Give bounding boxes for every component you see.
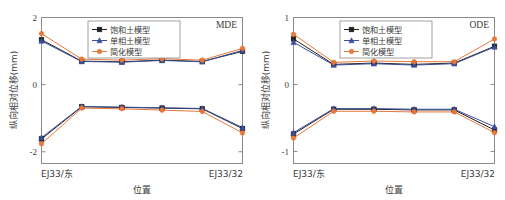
series-line — [42, 107, 243, 139]
x-tick-label-left: EJ33/东 — [293, 168, 325, 179]
data-point-marker — [412, 59, 417, 64]
legend-mde: 饱和土模型单相土模型简化模型 — [88, 21, 180, 58]
data-point-marker — [120, 106, 125, 111]
legend-label: 饱和土模型 — [362, 25, 402, 35]
y-tick-label: -1 — [282, 147, 290, 157]
legend-label: 单相土模型 — [110, 36, 150, 46]
data-point-marker — [120, 58, 125, 63]
x-tick-label-right: EJ33/32 — [209, 169, 243, 179]
data-point-marker — [492, 37, 497, 42]
data-point-marker — [200, 58, 205, 63]
legend-marker-square — [97, 27, 102, 32]
y-tick-label: 0 — [285, 80, 290, 90]
data-point-marker — [372, 59, 377, 64]
legend-label: 简化模型 — [362, 47, 394, 57]
panel-mde: 2 0 -2 EJ33/东 EJ33/32 位置 纵向相对位移(mm) MDE … — [0, 0, 252, 200]
data-point-marker — [39, 31, 44, 36]
y-axis-title-mde: 纵向相对位移(mm) — [8, 51, 19, 130]
x-tick-label-left: EJ33/东 — [41, 168, 73, 179]
legend-ode: 饱和土模型单相土模型简化模型 — [340, 21, 432, 58]
figure-two-panel-line-charts: 2 0 -2 EJ33/东 EJ33/32 位置 纵向相对位移(mm) MDE … — [0, 0, 505, 200]
legend-label: 饱和土模型 — [110, 25, 150, 35]
data-point-marker — [291, 32, 296, 37]
x-axis-title-mde: 位置 — [133, 184, 151, 195]
data-point-marker — [79, 106, 84, 111]
data-point-marker — [240, 131, 245, 136]
legend-label: 单相土模型 — [362, 36, 402, 46]
data-point-marker — [372, 109, 377, 114]
x-tick-labels-ode: EJ33/东 EJ33/32 — [293, 168, 495, 179]
data-point-marker — [160, 108, 165, 113]
data-point-marker — [412, 110, 417, 115]
series-line — [294, 109, 495, 133]
y-tick-label: -2 — [30, 147, 38, 157]
series-line — [42, 106, 243, 137]
data-point-marker — [39, 141, 44, 146]
y-tick-labels-ode: 1 0 -1 — [282, 13, 290, 157]
y-tick-label: 0 — [33, 80, 38, 90]
legend-marker-circle — [97, 49, 102, 54]
data-point-marker — [79, 57, 84, 62]
panel-tag-ode: ODE — [469, 20, 489, 30]
data-point-marker — [452, 59, 457, 64]
panel-tag-mde: MDE — [216, 20, 237, 30]
x-tick-label-right: EJ33/32 — [461, 169, 495, 179]
data-point-marker — [200, 109, 205, 114]
x-tick-labels-mde: EJ33/东 EJ33/32 — [41, 168, 243, 179]
x-axis-title-ode: 位置 — [385, 184, 403, 195]
data-point-marker — [331, 109, 336, 114]
chart-svg-ode: 1 0 -1 EJ33/东 EJ33/32 位置 纵向相对位移(mm) ODE … — [252, 0, 504, 200]
panel-ode: 1 0 -1 EJ33/东 EJ33/32 位置 纵向相对位移(mm) ODE … — [252, 0, 504, 200]
y-axis-title-ode: 纵向相对位移(mm) — [260, 51, 271, 130]
y-tick-label: 2 — [33, 13, 38, 23]
legend-marker-square — [349, 27, 354, 32]
y-tick-label: 1 — [285, 13, 290, 23]
data-point-marker — [240, 46, 245, 51]
chart-svg-mde: 2 0 -2 EJ33/东 EJ33/32 位置 纵向相对位移(mm) MDE … — [0, 0, 252, 200]
data-point-marker — [492, 130, 497, 135]
legend-label: 简化模型 — [110, 47, 142, 57]
data-point-marker — [291, 136, 296, 141]
data-point-marker — [452, 110, 457, 115]
legend-marker-circle — [349, 49, 354, 54]
data-point-marker — [331, 60, 336, 65]
series-line — [294, 109, 495, 134]
y-tick-labels-mde: 2 0 -2 — [30, 13, 38, 157]
